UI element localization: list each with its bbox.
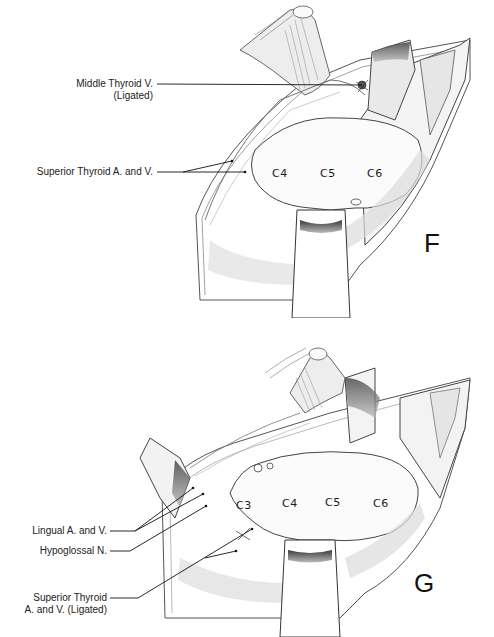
panel-letter-f: F xyxy=(424,228,440,259)
panel-letter-g: G xyxy=(414,568,434,599)
leader-middle-thyroid xyxy=(157,84,362,85)
panel-g: Lingual A. and V. Hypoglossal N. Superio… xyxy=(0,318,494,637)
leader-superior-thyroid-a xyxy=(183,161,232,172)
vertebra-c6: C6 xyxy=(373,497,389,510)
label-lingual: Lingual A. and V. xyxy=(32,525,107,537)
label-hypoglossal: Hypoglossal N. xyxy=(40,545,107,557)
label-middle-thyroid: Middle Thyroid V. (Ligated) xyxy=(76,78,153,102)
panel-f: Middle Thyroid V. (Ligated) Superior Thy… xyxy=(0,0,494,318)
label-middle-thyroid-line1: Middle Thyroid V. xyxy=(76,78,153,90)
vertebra-c3: C3 xyxy=(236,499,252,512)
vertebra-c5: C5 xyxy=(320,167,336,180)
label-superior-thyroid-ligated-line2: A. and V. (Ligated) xyxy=(25,604,107,616)
label-superior-thyroid-line1: Superior Thyroid A. and V. xyxy=(37,166,153,178)
label-superior-thyroid-ligated: Superior Thyroid A. and V. (Ligated) xyxy=(25,592,107,616)
vertebra-c4: C4 xyxy=(282,497,298,510)
label-superior-thyroid-ligated-line1: Superior Thyroid xyxy=(25,592,107,604)
label-hypoglossal-line1: Hypoglossal N. xyxy=(40,545,107,557)
label-lingual-line1: Lingual A. and V. xyxy=(32,525,107,537)
vertebra-c5: C5 xyxy=(325,496,341,509)
label-middle-thyroid-line2: (Ligated) xyxy=(76,90,153,102)
vertebra-c4: C4 xyxy=(272,167,288,180)
surgical-illustration-f xyxy=(0,0,494,318)
vertebra-c6: C6 xyxy=(367,167,383,180)
label-superior-thyroid: Superior Thyroid A. and V. xyxy=(37,166,153,178)
